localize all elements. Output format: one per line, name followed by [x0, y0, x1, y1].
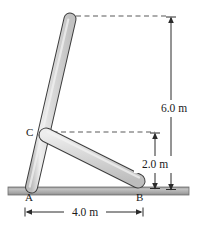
- dimension-2m-label: 2.0 m: [142, 158, 168, 170]
- rod-cb: [46, 132, 139, 181]
- rod-ac-highlight: [30, 20, 69, 187]
- point-label-c: C: [26, 126, 33, 138]
- rod-cb-highlight: [48, 132, 140, 178]
- rod-cb-fill: [46, 135, 138, 181]
- point-label-a: A: [25, 191, 33, 203]
- physics-diagram: 6.0 m 2.0 m 4.0 m A B C: [0, 0, 197, 226]
- rod-ac: [30, 19, 70, 187]
- rod-ac-fill: [32, 19, 71, 187]
- dimension-4m: 4.0 m: [25, 204, 143, 220]
- dimension-4m-label: 4.0 m: [72, 206, 98, 218]
- point-label-b: B: [136, 191, 143, 203]
- dimension-4m-arrow-left: [26, 209, 33, 215]
- dimension-6m-label: 6.0 m: [161, 102, 187, 114]
- dimension-4m-arrow-right: [136, 209, 143, 215]
- figure-container: 6.0 m 2.0 m 4.0 m A B C: [0, 0, 197, 226]
